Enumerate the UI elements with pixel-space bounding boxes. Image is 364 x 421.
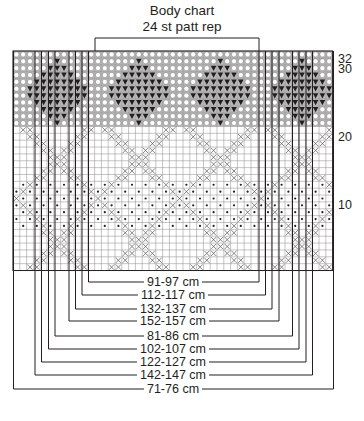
row-label: 20 xyxy=(338,131,352,143)
row-label: 30 xyxy=(338,63,352,75)
size-label: 152-157 cm xyxy=(137,315,209,328)
pattern-repeat-bracket xyxy=(95,38,259,51)
size-label: 112-117 cm xyxy=(138,289,208,302)
size-label: 71-76 cm xyxy=(144,383,202,396)
row-label: 10 xyxy=(338,199,352,211)
size-label: 142-147 cm xyxy=(137,369,209,382)
